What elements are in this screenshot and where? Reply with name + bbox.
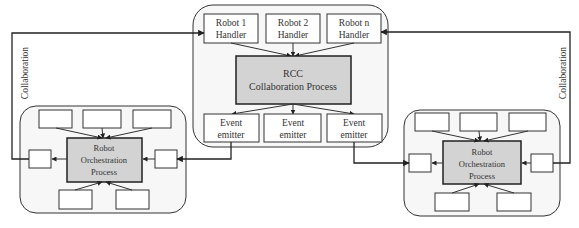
- left-collaboration-label: Collaboration: [20, 47, 30, 99]
- left-process-label-2: Orchestration: [81, 155, 128, 165]
- right-robot-container: Robot Orchestration Process: [404, 110, 560, 216]
- rcc-container: Robot 1 Handler Robot 2 Handler Robot n …: [193, 5, 388, 147]
- emitter-label-3: Event: [343, 118, 366, 128]
- robot-n-handler[interactable]: Robot n Handler: [327, 14, 381, 43]
- left-side-box-right: [155, 150, 177, 168]
- left-process-label-1: Robot: [94, 143, 115, 153]
- right-process-label-3: Process: [469, 171, 495, 181]
- left-input-box-1: [39, 110, 72, 128]
- left-robot-container: Robot Orchestration Process: [20, 106, 186, 213]
- right-side-box-left: [409, 154, 431, 172]
- left-robot-orchestration-process[interactable]: Robot Orchestration Process: [67, 138, 142, 182]
- left-output-box-1: [59, 190, 92, 209]
- handler-label-2b: Handler: [278, 30, 309, 40]
- emitter-label-2b: emitter: [280, 130, 308, 140]
- emitter-label-1b: emitter: [218, 130, 246, 140]
- right-input-box-2: [460, 113, 497, 131]
- right-collaboration-label: Collaboration: [558, 47, 568, 99]
- handler-label-1: Robot 1: [216, 18, 247, 28]
- left-input-box-3: [133, 110, 171, 128]
- left-output-box-2: [116, 190, 149, 209]
- handler-label-nb: Handler: [339, 30, 370, 40]
- emitter-label-3b: emitter: [341, 130, 369, 140]
- event-emitter-1[interactable]: Event emitter: [204, 114, 259, 142]
- event-emitter-2[interactable]: Event emitter: [264, 114, 321, 142]
- left-side-box-left: [29, 150, 51, 168]
- robot-2-handler[interactable]: Robot 2 Handler: [266, 14, 320, 43]
- robot-1-handler[interactable]: Robot 1 Handler: [204, 14, 258, 43]
- right-input-box-1: [415, 113, 449, 131]
- event-emitter-3[interactable]: Event emitter: [327, 114, 382, 142]
- architecture-diagram: Robot 1 Handler Robot 2 Handler Robot n …: [0, 0, 579, 228]
- rcc-collaboration-process[interactable]: RCC Collaboration Process: [236, 56, 351, 104]
- right-process-label-2: Orchestration: [459, 159, 506, 169]
- right-output-box-1: [435, 193, 469, 211]
- emitter-label-1: Event: [220, 118, 243, 128]
- right-robot-orchestration-process[interactable]: Robot Orchestration Process: [443, 141, 521, 184]
- left-process-label-3: Process: [91, 167, 117, 177]
- handler-label-1b: Handler: [216, 30, 247, 40]
- right-input-box-3: [509, 113, 546, 131]
- right-process-label-1: Robot: [472, 147, 493, 157]
- rcc-label-2: Collaboration Process: [249, 81, 337, 92]
- handler-label-2: Robot 2: [278, 18, 309, 28]
- handler-label-n: Robot n: [339, 18, 370, 28]
- right-output-box-2: [497, 193, 531, 211]
- rcc-label: RCC: [283, 68, 303, 79]
- left-input-box-2: [83, 110, 121, 128]
- right-side-box-right: [531, 154, 553, 172]
- emitter-label-2: Event: [282, 118, 305, 128]
